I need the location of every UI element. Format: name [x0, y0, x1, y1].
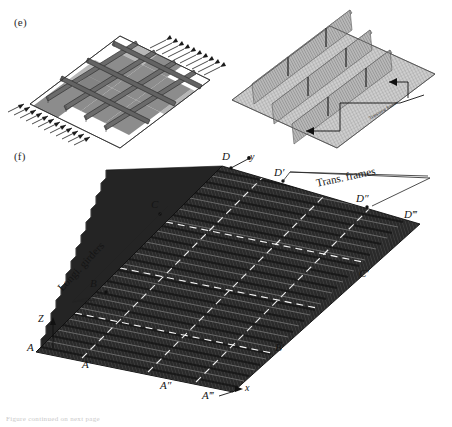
node-label-A-triple-prime: A‴ — [202, 389, 213, 401]
node-label-D-triple-prime: D‴ — [404, 208, 417, 220]
figure-page: (e) — [0, 0, 452, 427]
node-label-D-double-prime: D″ — [356, 192, 369, 204]
axis-y — [231, 159, 248, 168]
node-label-A-double-prime: A″ — [160, 379, 171, 391]
bottom-caption: Figure continued on next page — [6, 415, 236, 424]
node-label-D: D — [222, 150, 230, 162]
node-label-C: C — [151, 198, 158, 210]
axis-label-x: x — [245, 382, 249, 393]
node-label-A-prime: A′ — [82, 358, 91, 370]
node-label-A: A — [27, 341, 34, 353]
node-label-C-prime: C′ — [359, 267, 369, 279]
node-label-D-prime: D′ — [274, 166, 284, 178]
node-label-B-prime: B′ — [275, 341, 284, 353]
node-label-B: B — [90, 277, 97, 289]
panel-f-corrugated-deck-model — [0, 0, 452, 427]
axis-label-z: Z — [38, 313, 44, 324]
axis-label-y: y — [250, 151, 254, 162]
